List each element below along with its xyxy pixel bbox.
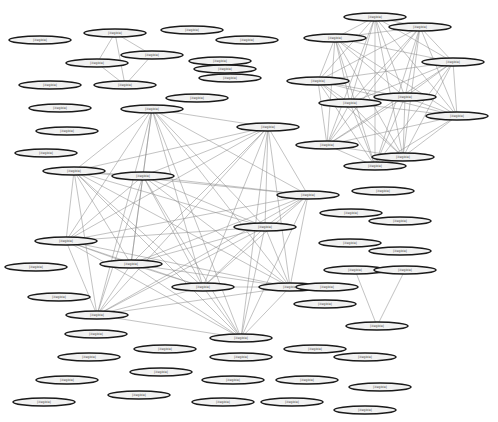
node-label: [illegible] [53, 106, 67, 110]
node-label: [illegible] [33, 38, 47, 42]
node-label: [illegible] [226, 378, 240, 382]
edge [143, 176, 241, 338]
graph-node[interactable]: [illegible] [334, 353, 396, 361]
graph-node[interactable]: [illegible] [189, 57, 251, 65]
graph-node[interactable]: [illegible] [294, 300, 356, 308]
node-label: [illegible] [158, 347, 172, 351]
graph-node[interactable]: [illegible] [134, 345, 196, 353]
graph-node[interactable]: [illegible] [84, 29, 146, 37]
node-label: [illegible] [393, 249, 407, 253]
graph-node[interactable]: [illegible] [352, 187, 414, 195]
node-label: [illegible] [234, 355, 248, 359]
graph-node[interactable]: [illegible] [35, 237, 97, 245]
edge [131, 127, 268, 264]
graph-node[interactable]: [illegible] [276, 376, 338, 384]
node-label: [illegible] [124, 262, 138, 266]
edge [265, 227, 290, 287]
edge [318, 81, 327, 145]
graph-node[interactable]: [illegible] [36, 127, 98, 135]
node-label: [illegible] [396, 155, 410, 159]
edge [74, 171, 265, 227]
graph-node[interactable]: [illegible] [304, 34, 366, 42]
graph-node[interactable]: [illegible] [389, 23, 451, 31]
graph-node[interactable]: [illegible] [66, 59, 128, 67]
edge [66, 127, 268, 241]
graph-node[interactable]: [illegible] [372, 153, 434, 161]
graph-node[interactable]: [illegible] [65, 330, 127, 338]
node-label: [illegible] [136, 174, 150, 178]
graph-node[interactable]: [illegible] [100, 260, 162, 268]
graph-node[interactable]: [illegible] [29, 104, 91, 112]
graph-node[interactable]: [illegible] [296, 283, 358, 291]
graph-node[interactable]: [illegible] [5, 263, 67, 271]
node-label: [illegible] [185, 28, 199, 32]
graph-node[interactable]: [illegible] [296, 141, 358, 149]
node-label: [illegible] [216, 400, 230, 404]
graph-node[interactable]: [illegible] [112, 172, 174, 180]
graph-node[interactable]: [illegible] [234, 223, 296, 231]
graph-node[interactable]: [illegible] [319, 99, 381, 107]
graph-node[interactable]: [illegible] [374, 93, 436, 101]
graph-node[interactable]: [illegible] [210, 353, 272, 361]
graph-node[interactable]: [illegible] [210, 334, 272, 342]
graph-node[interactable]: [illegible] [28, 293, 90, 301]
node-label: [illegible] [450, 114, 464, 118]
graph-node[interactable]: [illegible] [426, 112, 488, 120]
graph-node[interactable]: [illegible] [277, 191, 339, 199]
edge [66, 195, 308, 241]
graph-node[interactable]: [illegible] [19, 81, 81, 89]
node-label: [illegible] [154, 370, 168, 374]
graph-node[interactable]: [illegible] [161, 26, 223, 34]
edge [377, 270, 405, 326]
graph-node[interactable]: [illegible] [202, 376, 264, 384]
graph-node[interactable]: [illegible] [166, 94, 228, 102]
graph-node[interactable]: [illegible] [349, 383, 411, 391]
node-label: [illegible] [308, 347, 322, 351]
graph-node[interactable]: [illegible] [284, 345, 346, 353]
graph-node[interactable]: [illegible] [261, 398, 323, 406]
node-label: [illegible] [60, 378, 74, 382]
graph-node[interactable]: [illegible] [319, 239, 381, 247]
node-label: [illegible] [90, 313, 104, 317]
graph-node[interactable]: [illegible] [172, 283, 234, 291]
edge [318, 17, 375, 81]
node-label: [illegible] [318, 302, 332, 306]
graph-node[interactable]: [illegible] [374, 266, 436, 274]
graph-node[interactable]: [illegible] [346, 322, 408, 330]
graph-node[interactable]: [illegible] [94, 81, 156, 89]
graph-node[interactable]: [illegible] [9, 36, 71, 44]
graph-node[interactable]: [illegible] [66, 311, 128, 319]
graph-node[interactable]: [illegible] [192, 398, 254, 406]
node-label: [illegible] [393, 219, 407, 223]
node-label: [illegible] [320, 285, 334, 289]
graph-node[interactable]: [illegible] [121, 105, 183, 113]
graph-node[interactable]: [illegible] [199, 74, 261, 82]
node-label: [illegible] [37, 400, 51, 404]
graph-node[interactable]: [illegible] [334, 406, 396, 414]
edge [241, 287, 290, 338]
graph-node[interactable]: [illegible] [216, 36, 278, 44]
node-label: [illegible] [398, 95, 412, 99]
graph-node[interactable]: [illegible] [237, 123, 299, 131]
node-label: [illegible] [358, 355, 372, 359]
graph-node[interactable]: [illegible] [369, 217, 431, 225]
graph-node[interactable]: [illegible] [15, 149, 77, 157]
graph-node[interactable]: [illegible] [36, 376, 98, 384]
graph-node[interactable]: [illegible] [422, 58, 484, 66]
graph-node[interactable]: [illegible] [344, 13, 406, 21]
edge [74, 109, 152, 171]
graph-node[interactable]: [illegible] [121, 51, 183, 59]
graph-node[interactable]: [illegible] [320, 209, 382, 217]
graph-node[interactable]: [illegible] [43, 167, 105, 175]
graph-node[interactable]: [illegible] [369, 247, 431, 255]
node-label: [illegible] [234, 336, 248, 340]
edge [74, 171, 308, 195]
graph-node[interactable]: [illegible] [108, 391, 170, 399]
graph-node[interactable]: [illegible] [287, 77, 349, 85]
node-label: [illegible] [67, 169, 81, 173]
graph-node[interactable]: [illegible] [130, 368, 192, 376]
graph-node[interactable]: [illegible] [194, 65, 256, 73]
graph-node[interactable]: [illegible] [13, 398, 75, 406]
graph-node[interactable]: [illegible] [344, 162, 406, 170]
graph-node[interactable]: [illegible] [58, 353, 120, 361]
